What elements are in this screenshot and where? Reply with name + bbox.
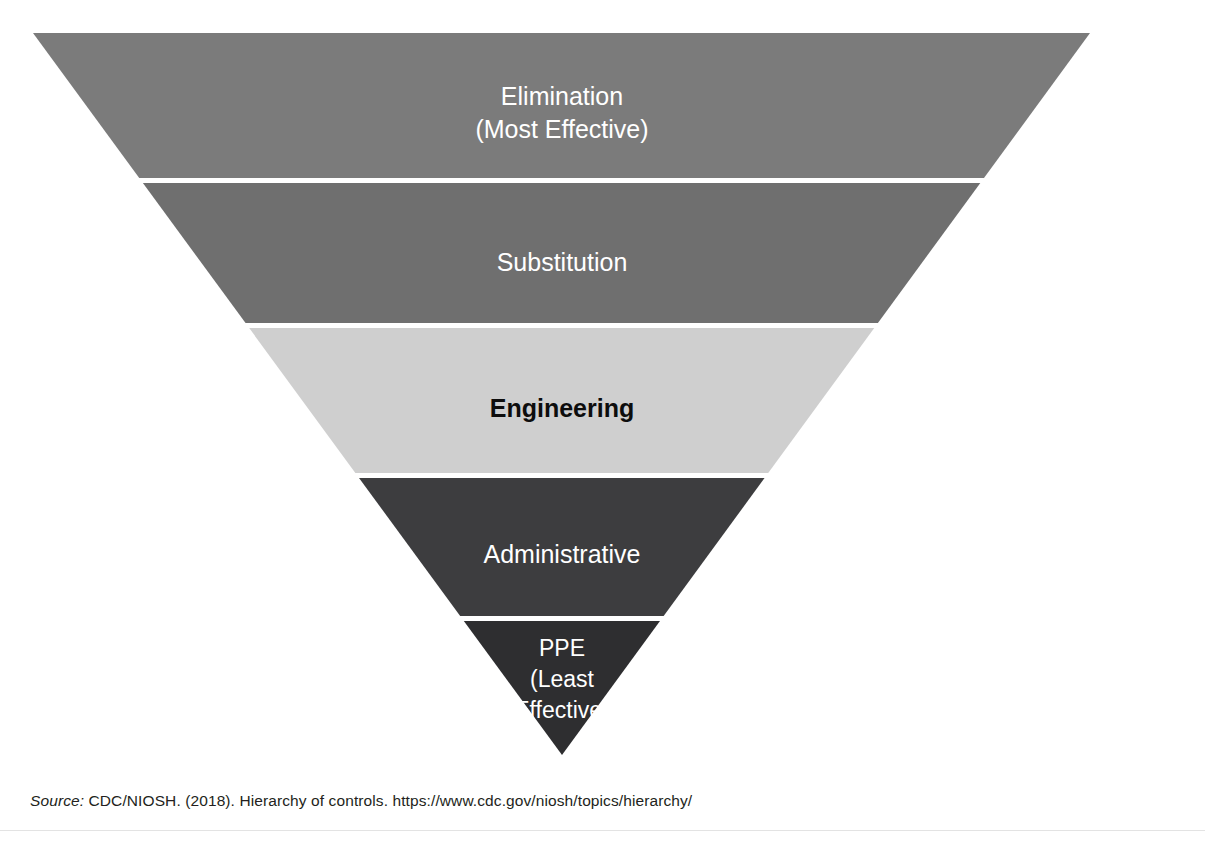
band-label-ppe-line3: Effective) bbox=[514, 697, 609, 723]
bottom-divider-rule bbox=[0, 830, 1205, 831]
band-label-ppe-line2: (Least bbox=[530, 666, 595, 692]
source-caption-text: CDC/NIOSH. (2018). Hierarchy of controls… bbox=[84, 792, 692, 809]
pyramid-band-ppe bbox=[0, 621, 1205, 755]
band-label-administrative: Administrative bbox=[484, 540, 641, 568]
source-caption: Source: CDC/NIOSH. (2018). Hierarchy of … bbox=[30, 791, 692, 811]
band-label-elimination-line1: Elimination bbox=[501, 82, 623, 110]
source-caption-keyword: Source: bbox=[30, 792, 84, 809]
hierarchy-of-controls-figure: Elimination (Most Effective) Substitutio… bbox=[0, 0, 1205, 770]
band-label-substitution: Substitution bbox=[497, 248, 628, 276]
inverted-pyramid-chart: Elimination (Most Effective) Substitutio… bbox=[0, 0, 1205, 770]
band-label-ppe-line1: PPE bbox=[539, 635, 585, 661]
band-label-engineering: Engineering bbox=[490, 394, 634, 422]
band-label-elimination-line2: (Most Effective) bbox=[475, 115, 648, 143]
